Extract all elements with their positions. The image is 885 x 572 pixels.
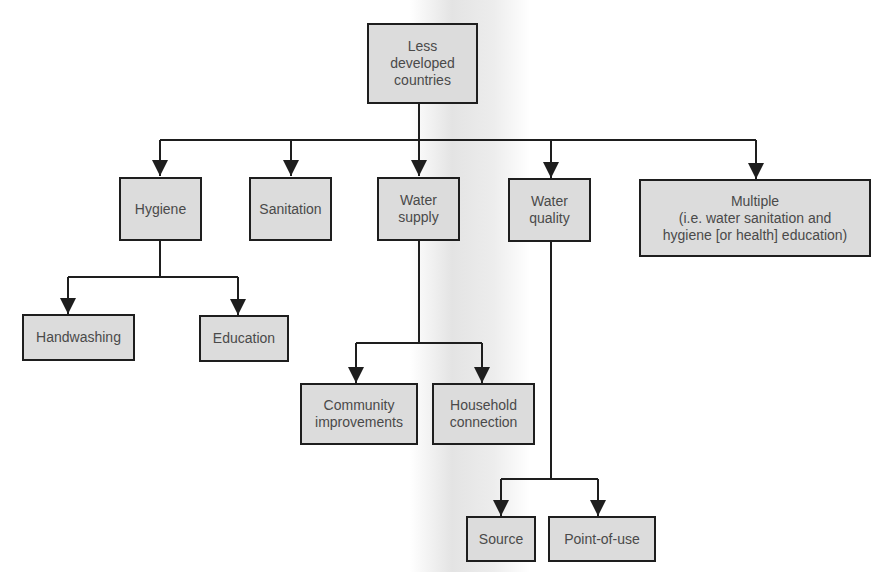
node-source: Source — [466, 516, 536, 562]
node-water-supply: Water supply — [377, 177, 460, 241]
node-point-of-use: Point-of-use — [548, 516, 656, 562]
node-label: Water quality — [529, 193, 569, 227]
node-community-improvements: Community improvements — [300, 383, 418, 445]
node-hygiene: Hygiene — [119, 177, 202, 241]
node-label: Hygiene — [135, 201, 186, 218]
node-education: Education — [199, 315, 289, 362]
node-sanitation: Sanitation — [249, 177, 332, 241]
node-label: Multiple (i.e. water sanitation and hygi… — [663, 193, 847, 244]
node-handwashing: Handwashing — [22, 314, 135, 361]
node-label: Point-of-use — [564, 531, 639, 548]
node-label: Source — [479, 531, 523, 548]
node-label: Handwashing — [36, 329, 121, 346]
node-less-developed-countries: Less developed countries — [367, 23, 478, 104]
node-label: Less developed countries — [390, 38, 455, 89]
node-label: Community improvements — [315, 397, 403, 431]
node-label: Water supply — [398, 192, 438, 226]
node-household-connection: Household connection — [432, 383, 535, 445]
node-label: Household connection — [450, 397, 518, 431]
node-label: Education — [213, 330, 275, 347]
node-water-quality: Water quality — [508, 178, 591, 242]
node-label: Sanitation — [259, 201, 321, 218]
node-multiple: Multiple (i.e. water sanitation and hygi… — [639, 179, 871, 257]
